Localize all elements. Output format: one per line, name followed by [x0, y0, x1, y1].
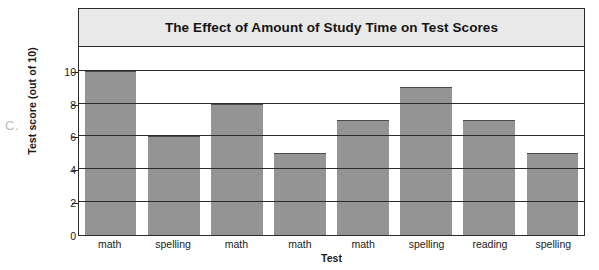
chart-frame: The Effect of Amount of Study Time on Te…	[78, 8, 585, 236]
x-tick-label: math	[332, 238, 395, 250]
y-tick-mark	[72, 72, 79, 73]
bar	[274, 153, 326, 235]
plot-area	[79, 48, 584, 235]
bar	[211, 104, 263, 235]
x-tick-label: spelling	[141, 238, 204, 250]
x-tick-label: math	[205, 238, 268, 250]
bar	[148, 136, 200, 235]
bar-slot	[142, 48, 205, 235]
gridline	[79, 168, 584, 169]
y-tick-label: 0	[52, 230, 76, 242]
y-tick-mark	[72, 170, 79, 171]
bar	[527, 153, 579, 235]
bar-slot	[395, 48, 458, 235]
x-tick-label: reading	[458, 238, 521, 250]
bar-slot	[458, 48, 521, 235]
chart-title: The Effect of Amount of Study Time on Te…	[165, 20, 498, 35]
x-tick-label: spelling	[522, 238, 585, 250]
bar	[400, 87, 452, 235]
bar-slot	[332, 48, 395, 235]
bar-slot	[521, 48, 584, 235]
bars-layer	[79, 48, 584, 235]
y-tick-mark	[72, 203, 79, 204]
x-tick-label: spelling	[395, 238, 458, 250]
figure-label: C.	[5, 118, 19, 133]
y-axis-title: Test score (out of 10)	[26, 21, 38, 181]
x-axis-title: Test	[78, 252, 585, 264]
bar-slot	[205, 48, 268, 235]
x-axis-labels: mathspellingmathmathmathspellingreadings…	[78, 238, 585, 250]
gridline	[79, 103, 584, 104]
x-tick-label: math	[268, 238, 331, 250]
bar-slot	[79, 48, 142, 235]
gridline	[79, 135, 584, 136]
x-tick-label: math	[78, 238, 141, 250]
y-tick-mark	[72, 105, 79, 106]
bar	[337, 120, 389, 235]
gridline	[79, 70, 584, 71]
bar	[85, 71, 137, 235]
chart-title-band: The Effect of Amount of Study Time on Te…	[79, 9, 584, 47]
y-tick-mark	[72, 137, 79, 138]
bar-slot	[268, 48, 331, 235]
bar	[463, 120, 515, 235]
gridline	[79, 201, 584, 202]
